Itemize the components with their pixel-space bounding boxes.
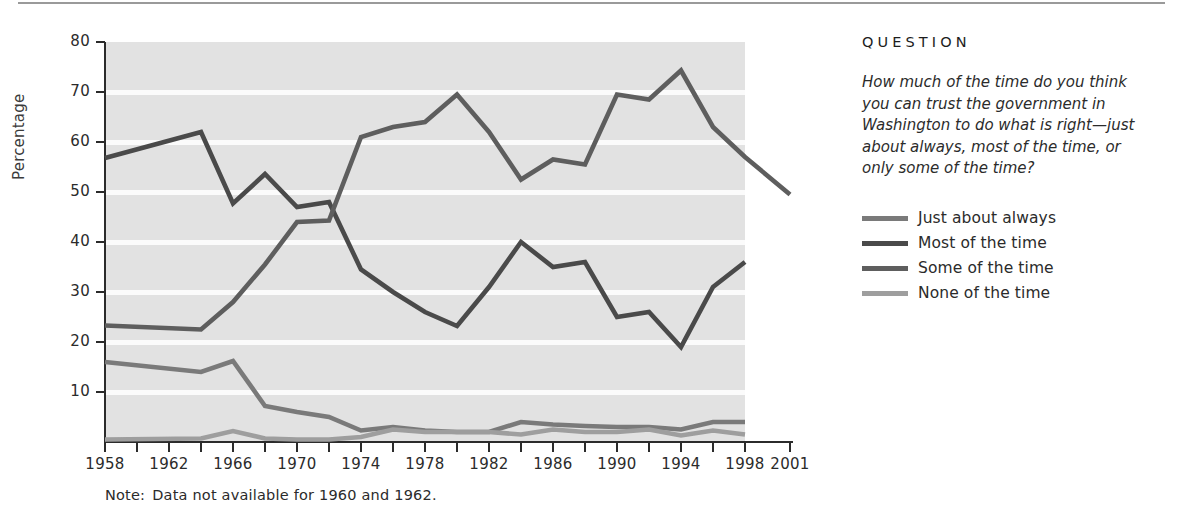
y-tick-mark xyxy=(96,191,105,193)
x-tick-label: 1966 xyxy=(203,455,263,473)
y-tick-label: 20 xyxy=(38,332,90,350)
y-tick-mark xyxy=(96,241,105,243)
y-tick-label: 50 xyxy=(38,182,90,200)
x-tick-mark xyxy=(392,443,394,452)
y-tick-label: 70 xyxy=(38,82,90,100)
question-heading: QUESTION xyxy=(862,34,1162,50)
y-tick-mark xyxy=(96,91,105,93)
legend-label: None of the time xyxy=(918,284,1050,302)
legend-swatch-icon xyxy=(862,241,908,246)
y-tick-label: 60 xyxy=(38,132,90,150)
x-tick-mark xyxy=(360,443,362,452)
x-tick-label: 1982 xyxy=(459,455,519,473)
y-tick-mark xyxy=(96,341,105,343)
legend-item[interactable]: Some of the time xyxy=(862,256,1162,281)
x-tick-mark xyxy=(488,443,490,452)
x-tick-mark xyxy=(296,443,298,452)
x-tick-mark xyxy=(168,443,170,452)
x-tick-mark xyxy=(104,443,106,452)
x-tick-mark xyxy=(520,443,522,452)
figure-root: Percentage 10203040506070801958196219661… xyxy=(0,0,1183,526)
y-tick-mark xyxy=(96,291,105,293)
footnote-body: Data not available for 1960 and 1962. xyxy=(152,487,437,503)
chart-legend: Just about alwaysMost of the timeSome of… xyxy=(862,206,1162,306)
x-tick-label: 2001 xyxy=(760,455,820,473)
x-tick-mark xyxy=(136,443,138,452)
x-tick-label: 1958 xyxy=(75,455,135,473)
x-tick-mark xyxy=(744,443,746,452)
legend-label: Most of the time xyxy=(918,234,1047,252)
x-tick-label: 1962 xyxy=(139,455,199,473)
x-tick-label: 1974 xyxy=(331,455,391,473)
legend-swatch-icon xyxy=(862,216,908,221)
plot-wrapper: 1020304050607080195819621966197019741978… xyxy=(0,0,830,470)
chart-footnote: Note:Data not available for 1960 and 196… xyxy=(105,487,437,503)
x-tick-mark xyxy=(584,443,586,452)
legend-item[interactable]: Most of the time xyxy=(862,231,1162,256)
x-tick-mark xyxy=(552,443,554,452)
y-tick-mark xyxy=(96,41,105,43)
gridline xyxy=(105,90,745,95)
legend-item[interactable]: None of the time xyxy=(862,281,1162,306)
x-tick-label: 1990 xyxy=(587,455,647,473)
y-tick-mark xyxy=(96,391,105,393)
x-tick-mark xyxy=(264,443,266,452)
footnote-lead: Note: xyxy=(105,487,145,503)
y-tick-label: 40 xyxy=(38,232,90,250)
y-tick-mark xyxy=(96,141,105,143)
y-tick-label: 80 xyxy=(38,32,90,50)
legend-swatch-icon xyxy=(862,266,908,271)
x-tick-mark xyxy=(789,443,791,452)
x-tick-label: 1994 xyxy=(651,455,711,473)
x-tick-mark xyxy=(648,443,650,452)
legend-swatch-icon xyxy=(862,291,908,296)
gridline xyxy=(105,190,745,195)
x-tick-mark xyxy=(712,443,714,452)
gridline xyxy=(105,240,745,245)
y-tick-label: 30 xyxy=(38,282,90,300)
legend-label: Some of the time xyxy=(918,259,1054,277)
legend-label: Just about always xyxy=(918,209,1056,227)
plot-area xyxy=(105,42,745,442)
x-tick-mark xyxy=(232,443,234,452)
x-tick-mark xyxy=(616,443,618,452)
question-panel: QUESTION How much of the time do you thi… xyxy=(862,34,1162,306)
gridline xyxy=(105,390,745,395)
x-tick-label: 1978 xyxy=(395,455,455,473)
gridline xyxy=(105,340,745,345)
x-tick-mark xyxy=(424,443,426,452)
x-tick-mark xyxy=(680,443,682,452)
x-tick-mark xyxy=(456,443,458,452)
gridline xyxy=(105,290,745,295)
y-tick-label: 10 xyxy=(38,382,90,400)
x-tick-mark xyxy=(200,443,202,452)
x-tick-label: 1970 xyxy=(267,455,327,473)
legend-item[interactable]: Just about always xyxy=(862,206,1162,231)
chart-block: Percentage 10203040506070801958196219661… xyxy=(0,0,830,526)
x-tick-mark xyxy=(328,443,330,452)
question-text: How much of the time do you think you ca… xyxy=(862,72,1152,180)
x-axis-line xyxy=(104,441,793,443)
x-tick-label: 1986 xyxy=(523,455,583,473)
gridline xyxy=(105,140,745,145)
